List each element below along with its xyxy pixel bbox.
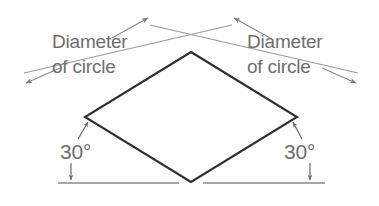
diagram-figure: Diameter of circle Diameter of circle 30…	[0, 0, 379, 206]
right-diameter-label-line2: of circle	[247, 54, 322, 79]
right-diameter-lower-leader	[322, 68, 356, 83]
right-diameter-label-line1: Diameter	[247, 29, 322, 54]
left-angle-label: 30°	[60, 141, 91, 163]
right-angle-upper-arrow	[293, 122, 302, 139]
left-angle-upper-arrow	[78, 122, 88, 139]
left-diameter-label-line1: Diameter	[52, 29, 127, 54]
right-diameter-label: Diameter of circle	[247, 29, 322, 79]
right-angle-label: 30°	[284, 141, 315, 163]
left-diameter-label: Diameter of circle	[52, 29, 127, 79]
left-diameter-label-line2: of circle	[52, 54, 127, 79]
